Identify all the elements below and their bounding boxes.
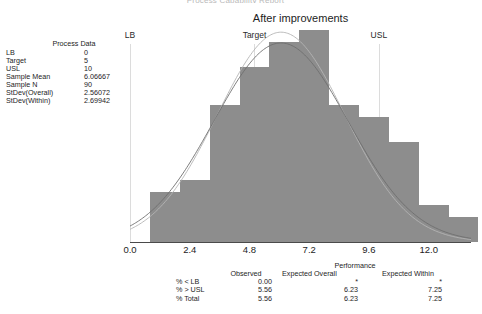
x-tick-label: 7.2 [303, 244, 316, 255]
x-axis-tick-labels: 0.02.44.87.29.612.0 [130, 244, 471, 258]
process-data-rows: LB0Target5USL10Sample Mean6.06667Sample … [6, 49, 130, 106]
x-tick-label: 9.6 [362, 244, 375, 255]
performance-row: % > USL5.566.237.25 [176, 286, 466, 294]
performance-cell-observed: 5.56 [220, 295, 272, 303]
x-tick-label: 0.0 [123, 244, 136, 255]
x-tick-label: 4.8 [243, 244, 256, 255]
performance-row: % < LB0.00** [176, 278, 466, 286]
x-tick-label: 2.4 [183, 244, 196, 255]
process-data-row: Target5 [6, 57, 130, 65]
process-data-value: 0 [84, 49, 130, 57]
process-data-value: 2.69942 [84, 97, 130, 105]
process-data-table: Process Data LB0Target5USL10Sample Mean6… [6, 40, 130, 105]
normal-curve-within [130, 43, 471, 238]
histogram-plot: LBTargetUSL [130, 30, 471, 242]
clipped-report-title: Process Capability Report [0, 0, 471, 3]
performance-cell-expected-overall: 6.23 [272, 295, 358, 303]
performance-table: Performance Observed Expected Overall Ex… [176, 262, 466, 303]
x-axis-line [130, 242, 471, 243]
chart-title: After improvements [130, 12, 471, 24]
x-tick-label: 12.0 [419, 244, 438, 255]
performance-cell-expected-within: 7.25 [358, 295, 442, 303]
performance-title: Performance [176, 262, 482, 270]
performance-col-expected-within: Expected Within [368, 270, 466, 278]
fitted-normal-curves [130, 30, 471, 242]
performance-col-expected-overall: Expected Overall [272, 270, 368, 278]
normal-curve-overall [130, 32, 471, 239]
process-data-heading: Process Data [6, 40, 130, 48]
process-data-row: StDev(Within)2.69942 [6, 97, 130, 105]
performance-rows: % < LB0.00**% > USL5.566.237.25% Total5.… [176, 278, 466, 303]
performance-row: % Total5.566.237.25 [176, 295, 466, 303]
process-data-label: StDev(Within) [6, 97, 50, 105]
performance-cell-label: % Total [176, 295, 220, 303]
